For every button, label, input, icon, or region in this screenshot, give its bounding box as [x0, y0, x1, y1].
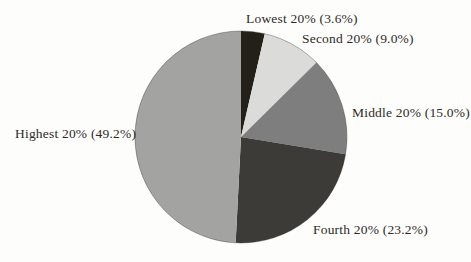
- pie-label-fourth-20: Fourth 20% (23.2%): [313, 223, 428, 237]
- pie-label-second-20: Second 20% (9.0%): [302, 32, 414, 46]
- pie-label-middle-20: Middle 20% (15.0%): [352, 106, 470, 120]
- pie-label-highest-20: Highest 20% (49.2%): [15, 127, 136, 141]
- pie-label-lowest-20: Lowest 20% (3.6%): [246, 12, 358, 26]
- pie-slice-highest-20-: [135, 31, 241, 243]
- income-share-pie-figure: Lowest 20% (3.6%) Second 20% (9.0%) Midd…: [0, 0, 471, 262]
